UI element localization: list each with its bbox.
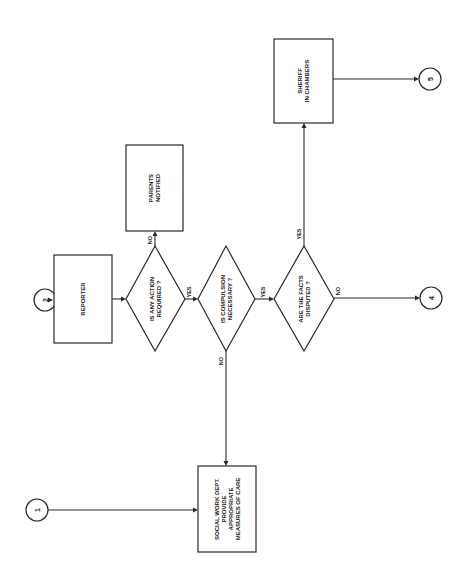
connector-1-label: 1 xyxy=(34,508,41,512)
node-reporter: REPORTER xyxy=(54,255,112,343)
connector-1: 1 xyxy=(26,499,48,521)
compulsion-line2: NECESSARY ? xyxy=(227,277,233,320)
action-required-line1: IS ANY ACTION xyxy=(149,277,155,321)
compulsion-line1: IS COMPULSION xyxy=(220,275,226,323)
decision-facts-disputed: ARE THE FACTS DISPUTED ? xyxy=(274,246,334,351)
flowchart-canvas: 2 1 4 5 REPORTER PARENTS NOTIFIED SHERIF… xyxy=(0,0,464,587)
edge-facts-no-to-c4 xyxy=(334,296,420,301)
action-required-line2: REQUIRED ? xyxy=(156,280,162,317)
social-work-line1: SOCIAL WORK DEPT. xyxy=(214,478,220,540)
reporter-label: REPORTER xyxy=(80,282,86,316)
edge-action-no-to-parents xyxy=(153,231,158,246)
label-compulsion-no: NO xyxy=(218,356,224,365)
connector-2: 2 xyxy=(34,289,56,311)
decision-action-required: IS ANY ACTION REQUIRED ? xyxy=(126,246,185,351)
connector-2-label: 2 xyxy=(42,298,49,302)
sheriff-line2: IN CHAMBERS xyxy=(304,60,310,102)
facts-disputed-line2: DISPUTED ? xyxy=(305,281,311,317)
decision-compulsion-necessary: IS COMPULSION NECESSARY ? xyxy=(198,246,255,351)
facts-disputed-line1: ARE THE FACTS xyxy=(298,275,304,323)
connector-5-label: 5 xyxy=(427,77,434,81)
social-work-line2: PROVIDE xyxy=(221,495,227,522)
node-social-work-dept: SOCIAL WORK DEPT. PROVIDE APPROPRIATE ME… xyxy=(198,466,256,552)
label-facts-no: NO xyxy=(335,286,341,295)
edge-sheriff-to-c5 xyxy=(333,77,419,82)
parents-notified-line1: PARENTS xyxy=(148,174,154,202)
label-action-no: NO xyxy=(147,235,153,244)
edge-c1-to-social-work xyxy=(48,508,198,513)
sheriff-line1: SHERIFF xyxy=(297,68,303,94)
connector-4: 4 xyxy=(420,287,442,309)
edge-facts-yes-to-sheriff xyxy=(302,123,307,246)
node-parents-notified: PARENTS NOTIFIED xyxy=(126,145,183,231)
edge-compulsion-no-to-social-work xyxy=(224,351,229,466)
label-facts-yes: YES xyxy=(296,228,302,239)
label-compulsion-yes: YES xyxy=(260,286,266,297)
connector-4-label: 4 xyxy=(428,296,435,300)
social-work-line4: MEASURES OF CARE xyxy=(235,478,241,541)
connector-5: 5 xyxy=(419,68,441,90)
social-work-line3: APPROPRIATE xyxy=(228,488,234,531)
parents-notified-line2: NOTIFIED xyxy=(155,173,161,202)
label-action-yes: YES xyxy=(186,286,192,297)
node-sheriff-in-chambers: SHERIFF IN CHAMBERS xyxy=(274,39,333,123)
edge-reporter-to-action xyxy=(112,297,126,302)
